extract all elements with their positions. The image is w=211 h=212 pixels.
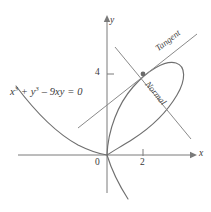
equation-minus: – [42, 86, 47, 97]
x-tick-label-2: 2 [140, 158, 145, 168]
x-axis-arrowhead [190, 152, 197, 158]
folium-lower-branch [107, 155, 128, 199]
y-tick-label-4: 4 [95, 68, 100, 78]
equation-label: x3 + y3 – 9xy = 0 [10, 87, 83, 98]
equation-term: 9xy [50, 86, 65, 97]
equation-equals: = [67, 86, 74, 97]
x-axis-label: x [199, 149, 203, 159]
tangency-point-marker [141, 72, 146, 77]
folium-loop [107, 62, 184, 155]
equation-plus: + [21, 86, 28, 97]
origin-label: 0 [95, 158, 100, 168]
y-axis-label: y [110, 16, 114, 26]
folium-figure: x3 + y3 – 9xy = 0 y x 0 2 4 Tangent Norm… [0, 0, 211, 212]
equation-y-exponent: 3 [36, 85, 39, 92]
tangent-line [78, 34, 197, 128]
equation-x-exponent: 3 [15, 85, 18, 92]
equation-rhs: 0 [77, 86, 82, 97]
folium-curve-group [16, 62, 184, 199]
